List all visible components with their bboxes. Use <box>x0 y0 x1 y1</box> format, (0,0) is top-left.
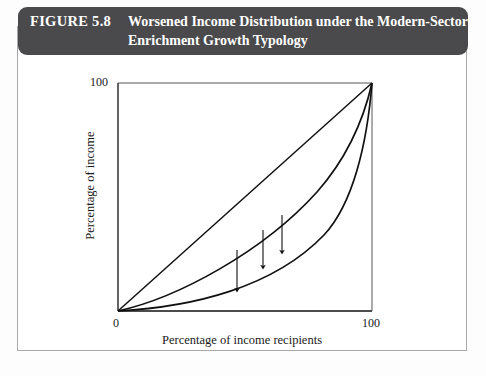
line-of-perfect-equality <box>118 83 372 311</box>
x-axis-title: Percentage of income recipients <box>17 333 467 348</box>
figure-root: FIGURE 5.8 Worsened Income Distribution … <box>0 0 486 376</box>
y-axis-tick-100: 100 <box>90 75 108 90</box>
x-axis-tick-100: 100 <box>362 316 380 331</box>
x-axis-tick-0: 0 <box>113 316 119 331</box>
y-axis-title: Percentage of income <box>83 106 98 266</box>
chart-plot-area: 100 0 100 Percentage of income recipient… <box>17 26 467 351</box>
